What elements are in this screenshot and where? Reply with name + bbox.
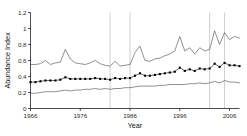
- data-point-marker: [69, 78, 71, 80]
- tick-marks-group: [28, 13, 229, 111]
- data-point-marker: [184, 70, 186, 72]
- y-tick-label-1.2: 1.2: [18, 9, 27, 16]
- y-tick-label-0.2: 0.2: [18, 89, 27, 96]
- y-tick-label-0.4: 0.4: [18, 73, 27, 80]
- data-point-marker: [204, 68, 206, 70]
- data-point-marker: [119, 78, 121, 80]
- data-point-marker: [129, 77, 131, 79]
- data-point-marker: [94, 77, 96, 79]
- x-tick-label-1996: 1996: [173, 112, 187, 119]
- series-line-2: [31, 81, 240, 94]
- y-tick-label-1: 1: [23, 25, 27, 32]
- axes-group: [31, 13, 240, 109]
- data-point-marker: [109, 79, 111, 81]
- data-point-marker: [99, 78, 101, 80]
- data-point-marker: [189, 68, 191, 70]
- series-line-0: [31, 31, 240, 66]
- data-point-marker: [159, 73, 161, 75]
- y-axis-tick-labels: 00.20.40.60.811.2: [18, 9, 27, 112]
- abundance-index-chart: 19661976198619962006 00.20.40.60.811.2 Y…: [0, 0, 247, 136]
- chart-canvas: 19661976198619962006 00.20.40.60.811.2 Y…: [0, 0, 247, 136]
- x-tick-label-1986: 1986: [123, 112, 137, 119]
- data-point-marker: [174, 71, 176, 73]
- data-point-marker: [224, 62, 226, 64]
- data-point-marker: [179, 67, 181, 69]
- data-point-marker: [124, 77, 126, 79]
- data-point-marker: [164, 72, 166, 74]
- x-tick-label-1976: 1976: [73, 112, 87, 119]
- data-point-marker: [44, 79, 46, 81]
- data-markers-group: [29, 62, 240, 83]
- data-point-marker: [139, 72, 141, 74]
- data-point-marker: [54, 79, 56, 81]
- data-point-marker: [194, 70, 196, 72]
- y-tick-label-0.6: 0.6: [18, 57, 27, 64]
- y-tick-label-0: 0: [23, 105, 27, 112]
- data-point-marker: [74, 78, 76, 80]
- data-point-marker: [199, 67, 201, 69]
- data-point-marker: [114, 77, 116, 79]
- data-point-marker: [89, 78, 91, 80]
- data-point-marker: [34, 81, 36, 83]
- data-point-marker: [144, 75, 146, 77]
- data-point-marker: [79, 78, 81, 80]
- x-tick-label-2006: 2006: [223, 112, 237, 119]
- data-point-marker: [104, 78, 106, 80]
- data-point-marker: [209, 67, 211, 69]
- y-axis-title: Abundance Index: [3, 32, 12, 88]
- reference-lines-group: [110, 13, 224, 109]
- series-line-1: [31, 63, 240, 82]
- data-point-marker: [29, 81, 31, 83]
- data-point-marker: [149, 75, 151, 77]
- data-point-marker: [84, 78, 86, 80]
- y-tick-label-0.8: 0.8: [18, 41, 27, 48]
- x-tick-label-1966: 1966: [24, 112, 38, 119]
- x-axis-title: Year: [128, 121, 143, 130]
- data-series-group: [31, 31, 240, 93]
- data-point-marker: [229, 64, 231, 66]
- data-point-marker: [59, 79, 61, 81]
- data-point-marker: [134, 75, 136, 77]
- data-point-marker: [49, 79, 51, 81]
- data-point-marker: [214, 63, 216, 65]
- data-point-marker: [238, 65, 240, 67]
- x-axis-tick-labels: 19661976198619962006: [24, 112, 237, 119]
- data-point-marker: [169, 71, 171, 73]
- data-point-marker: [233, 64, 235, 66]
- data-point-marker: [39, 80, 41, 82]
- data-point-marker: [219, 66, 221, 68]
- data-point-marker: [154, 74, 156, 76]
- data-point-marker: [64, 76, 66, 78]
